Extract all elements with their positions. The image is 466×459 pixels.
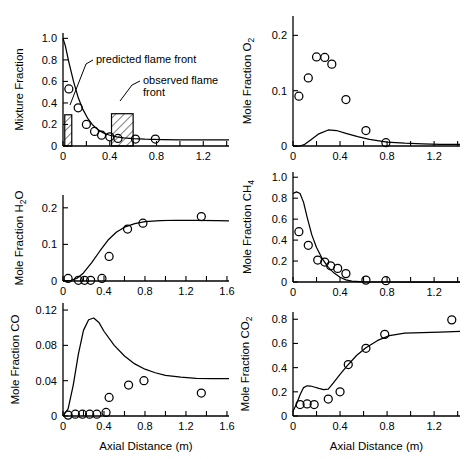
data-point [74,104,82,112]
y-axis-label: Mole Fraction CH4 [241,180,256,274]
x-tick-label: 1.2 [196,150,211,162]
y-tick-label: 0.6 [42,75,57,87]
series-measured [296,316,456,409]
y-tick-label: 0 [51,140,57,152]
observed-flame-front-leader [120,81,140,101]
y-tick-label: 0.12 [36,304,57,316]
svg-text:Mole Fraction CO2: Mole Fraction CO2 [239,316,254,411]
y-tick-label: 0 [281,276,287,288]
predicted-flame-front-box [65,115,72,146]
y-tick-label: 0.2 [272,386,287,398]
x-tick-label: 1.2 [178,420,193,432]
y-tick-label: 0.4 [272,234,287,246]
x-tick-label: 0.8 [379,150,394,162]
data-point [382,277,390,285]
y-tick-label: 0 [281,410,287,422]
y-tick-label: 0.2 [272,255,287,267]
data-point [362,127,370,135]
y-tick-label: 0.1 [272,85,287,97]
y-axis-label: Mixture Fraction [13,48,25,130]
series-predicted [63,318,229,416]
svg-text:Mole Fraction O2: Mole Fraction O2 [241,37,256,124]
data-point [336,388,344,396]
x-tick-label: 1.6 [219,285,234,297]
x-tick-label: 0.8 [379,420,394,432]
y-tick-label: 0.6 [272,337,287,349]
data-point [321,53,329,61]
data-point [295,228,303,236]
svg-text:Mixture Fraction: Mixture Fraction [13,48,25,130]
y-tick-label: 0.4 [42,97,57,109]
x-tick-label: 0.4 [96,420,111,432]
data-point [87,276,95,284]
y-tick-label: 0.8 [272,192,287,204]
data-point [102,408,110,416]
data-point [342,270,350,278]
y-axis-label: Mole Fraction H2O [13,191,28,286]
svg-text:Mole Fraction H2O: Mole Fraction H2O [13,191,28,286]
observed-flame-front-label-line2: front [143,86,165,98]
svg-text:Mole Fraction CO: Mole Fraction CO [9,314,21,404]
panel-mole-fraction-co: 00.040.080.1200.40.81.21.6Mole Fraction … [9,303,235,452]
x-tick-label: 1.2 [426,286,441,298]
x-tick-label: 0.8 [149,150,164,162]
y-tick-label: 0.08 [36,339,57,351]
data-point [334,264,342,272]
x-tick-label: 0 [290,286,296,298]
y-tick-label: 0.6 [272,213,287,225]
y-tick-label: 1.0 [272,171,287,183]
data-point [82,120,90,128]
data-point [105,393,113,401]
x-tick-label: 0.4 [96,285,111,297]
data-point [313,53,321,61]
panel-mixture-fraction: 00.20.40.60.81.000.40.81.2Mixture Fracti… [13,32,229,162]
y-tick-label: 0 [281,140,287,152]
x-tick-label: 0 [290,150,296,162]
x-tick-label: 0.4 [102,150,117,162]
x-tick-label: 0 [60,420,66,432]
series-predicted [293,130,460,146]
x-tick-label: 0.8 [379,286,394,298]
data-point [197,389,205,397]
x-tick-label: 1.6 [219,420,234,432]
y-tick-label: 0.4 [272,362,287,374]
multi-panel-chart: 00.20.40.60.81.000.40.81.2Mixture Fracti… [0,0,466,459]
panel-mole-fraction-h2o: 00.10.200.40.81.21.6Mole Fraction H2O [13,191,235,297]
data-point [65,85,73,93]
x-tick-label: 0.4 [332,150,347,162]
predicted-flame-front-label: predicted flame front [96,53,196,65]
data-point [448,316,456,324]
series-predicted [293,192,460,282]
x-tick-label: 0 [60,150,66,162]
x-axis-label: Axial Distance (m) [99,440,192,452]
data-point [324,395,332,403]
data-point [342,96,350,104]
y-tick-label: 0.2 [272,29,287,41]
data-point [295,92,303,100]
x-tick-label: 0.4 [332,286,347,298]
series-measured [295,228,390,285]
series-predicted [293,331,460,411]
y-axis-label: Mole Fraction CO [9,314,21,404]
series-measured [64,377,205,419]
y-tick-label: 0.1 [42,238,57,250]
x-tick-label: 0 [60,285,66,297]
data-point [197,213,205,221]
x-tick-label: 1.2 [426,420,441,432]
panel-mole-fraction-ch4: 00.20.40.60.81.000.40.81.2Mole Fraction … [241,171,460,298]
panel-mole-fraction-o2: 00.10.200.40.81.2Mole Fraction O2 [241,16,460,162]
data-point [125,381,133,389]
x-tick-label: 0.4 [332,420,347,432]
y-axis-label: Mole Fraction O2 [241,37,256,124]
y-tick-label: 0 [51,275,57,287]
y-tick-label: 0.04 [36,375,57,387]
flame-front-annotations: predicted flame frontobserved flamefront [70,53,218,105]
x-tick-label: 0 [290,420,296,432]
y-tick-label: 0.8 [272,313,287,325]
data-point [304,241,312,249]
y-tick-label: 0.2 [42,118,57,130]
x-tick-label: 0.8 [137,285,152,297]
x-tick-label: 0.8 [137,420,152,432]
data-point [304,74,312,82]
x-tick-label: 1.2 [178,285,193,297]
